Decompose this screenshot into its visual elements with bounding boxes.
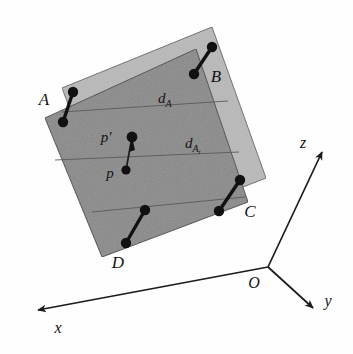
figure-root: A B C D p' p dA dAi z y x O xyxy=(0,0,353,354)
axis-label-z: z xyxy=(299,134,307,151)
vertex-label-b: B xyxy=(211,67,222,86)
dumbbell-a-dot-upper xyxy=(68,87,78,97)
dumbbell-a-dot-lower xyxy=(58,117,68,127)
p-prime-dot xyxy=(127,132,138,143)
dumbbell-d-dot-upper xyxy=(140,205,150,215)
point-label-p: p xyxy=(105,165,114,181)
axis-x xyxy=(38,267,268,310)
dumbbell-d-dot-lower xyxy=(121,238,131,248)
axis-z xyxy=(268,152,322,267)
distance-label-d-a-i-subsub: i xyxy=(199,148,201,156)
axis-label-y: y xyxy=(322,292,332,310)
vertex-label-d: D xyxy=(111,253,125,272)
dumbbell-c-dot-lower xyxy=(214,206,224,216)
point-label-p-prime: p' xyxy=(100,129,113,145)
dumbbell-c-dot-upper xyxy=(235,175,245,185)
vertex-label-c: C xyxy=(244,202,256,221)
vertex-label-a: A xyxy=(38,90,50,109)
diagram-canvas: A B C D p' p dA dAi z y x O xyxy=(0,0,353,354)
axis-label-x: x xyxy=(53,319,61,336)
axis-label-origin: O xyxy=(248,274,260,291)
dumbbell-b-dot-upper xyxy=(207,42,217,52)
axis-y xyxy=(268,267,313,308)
p-dot xyxy=(121,165,130,174)
distance-label-d-a-sub: A xyxy=(165,98,173,109)
dumbbell-b-dot-lower xyxy=(189,69,199,79)
